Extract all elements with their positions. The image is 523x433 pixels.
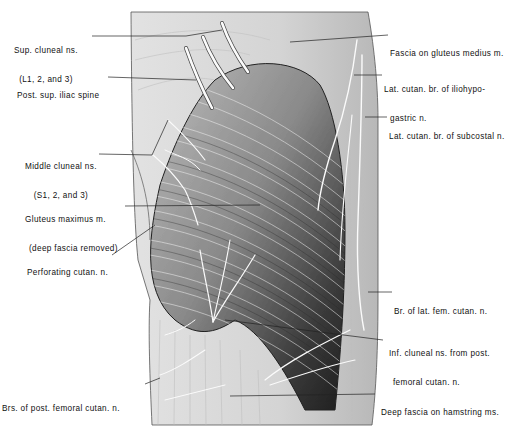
label-line: Gluteus maximus m. (25, 215, 118, 225)
label-perforating-cutan: Perforating cutan. n. (27, 249, 108, 297)
label-line: Fascia on gluteus medius m. (390, 49, 504, 59)
label-line: Inf. cluneal ns. from post. (389, 349, 490, 359)
label-lat-cutan-subcostal: Lat. cutan. br. of subcostal n. (389, 113, 505, 161)
label-line: Br. of lat. fem. cutan. n. (394, 307, 487, 317)
label-brs-post-femoral: Brs. of post. femoral cutan. n. (2, 385, 120, 433)
anatomical-figure: Sup. cluneal ns. (L1, 2, and 3) Post. su… (0, 0, 523, 433)
label-line: Lat. cutan. br. of iliohypo- (384, 85, 485, 95)
label-line: Perforating cutan. n. (27, 268, 108, 278)
label-line: Sup. cluneal ns. (14, 46, 78, 56)
label-line: Brs. of post. femoral cutan. n. (2, 404, 120, 414)
label-br-lat-fem-cutan: Br. of lat. fem. cutan. n. (394, 288, 487, 336)
label-deep-fascia-hamstring: Deep fascia on hamstring ms. (381, 389, 499, 433)
label-line: Post. sup. iliac spine (17, 91, 99, 101)
label-line: femoral cutan. n. (389, 378, 490, 388)
label-line: Deep fascia on hamstring ms. (381, 408, 499, 418)
label-line: Lat. cutan. br. of subcostal n. (389, 132, 505, 142)
label-post-sup-iliac-spine: Post. sup. iliac spine (17, 72, 99, 120)
label-line: Middle cluneal ns. (25, 162, 97, 172)
